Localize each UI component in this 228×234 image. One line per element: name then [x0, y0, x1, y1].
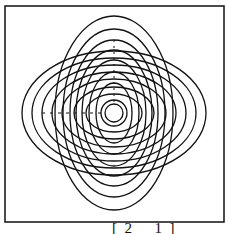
center-circles [101, 100, 127, 126]
matrix-caption: [ 2 1 ] [112, 221, 175, 234]
center-circle [105, 104, 123, 122]
tall-ellipse [55, 16, 173, 210]
tall-ellipse [63, 29, 165, 197]
wide-ellipse [22, 51, 206, 175]
ellipse-diagram [0, 0, 228, 234]
wide-ellipse-family [22, 51, 206, 175]
wide-ellipse [32, 58, 196, 168]
figure-frame [5, 6, 224, 222]
tall-ellipse-family [55, 16, 173, 210]
